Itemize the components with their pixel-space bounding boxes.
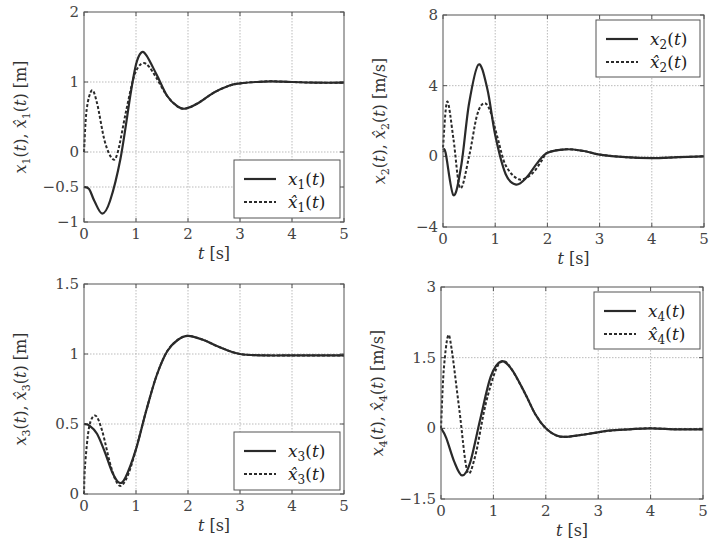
subplot-x1: 012345210−0.5−1t [s]x1(t), x̂1(t) [m]x1(… <box>11 3 349 263</box>
x-tick-label: 1 <box>489 502 499 520</box>
x-tick-label: 0 <box>79 497 89 515</box>
subplot-x2: 012345840−4t [s]x2(t), x̂2(t) [m/s]x2(t)… <box>370 6 709 268</box>
x-tick-label: 0 <box>79 225 89 243</box>
y-tick-label: 1 <box>69 345 79 363</box>
x-tick-label: 4 <box>646 502 656 520</box>
state-line-x4 <box>441 361 703 475</box>
y-tick-label: 3 <box>426 278 436 296</box>
legend: x1(t)x̂1(t) <box>234 160 340 218</box>
x-axis-label: t [s] <box>557 249 589 268</box>
legend-label: x̂2(t) <box>650 52 687 75</box>
subplot-x4: 01234531.50−1.5t [s]x4(t), x̂4(t) [m/s]x… <box>368 278 708 540</box>
y-tick-label: 1.5 <box>412 349 436 367</box>
y-axis-label: x4(t), x̂4(t) [m/s] <box>368 330 390 456</box>
legend-label: x3(t) <box>288 441 325 464</box>
legend: x4(t)x̂4(t) <box>594 292 700 349</box>
y-tick-label: 0 <box>69 143 79 161</box>
x-tick-label: 2 <box>183 225 193 243</box>
x-tick-label: 1 <box>131 497 141 515</box>
subplot-x3: 0123451.510.50t [s]x3(t), x̂3(t) [m]x3(t… <box>11 275 349 535</box>
legend: x3(t)x̂3(t) <box>234 432 340 490</box>
x-tick-label: 3 <box>595 230 605 248</box>
estimate-line-x4 <box>441 335 703 473</box>
y-tick-label: 0 <box>428 147 438 165</box>
x-tick-label: 4 <box>287 497 297 515</box>
x-tick-label: 5 <box>339 225 349 243</box>
y-axis-label: x3(t), x̂3(t) [m] <box>11 333 33 446</box>
y-tick-label: 1 <box>69 73 79 91</box>
legend-label: x̂3(t) <box>288 464 325 487</box>
y-tick-label: 2 <box>69 3 79 21</box>
x-tick-label: 4 <box>647 230 657 248</box>
state-line-x2 <box>443 64 704 195</box>
legend-label: x̂1(t) <box>288 192 325 215</box>
x-axis-label: t [s] <box>556 521 588 540</box>
x-tick-label: 5 <box>698 502 708 520</box>
x-axis-label: t [s] <box>198 516 230 535</box>
legend: x2(t)x̂2(t) <box>596 20 700 77</box>
x-tick-label: 3 <box>593 502 603 520</box>
x-tick-label: 2 <box>183 497 193 515</box>
y-tick-label: −0.5 <box>43 178 79 196</box>
legend-label: x2(t) <box>650 29 687 52</box>
legend-label: x4(t) <box>648 301 685 324</box>
y-tick-label: −1.5 <box>400 490 436 508</box>
x-tick-label: 3 <box>235 497 245 515</box>
x-tick-label: 0 <box>438 230 448 248</box>
y-axis-label: x1(t), x̂1(t) [m] <box>11 61 33 174</box>
y-axis-label: x2(t), x̂2(t) [m/s] <box>370 58 392 184</box>
figure-canvas: 012345210−0.5−1t [s]x1(t), x̂1(t) [m]x1(… <box>0 0 725 545</box>
x-tick-label: 1 <box>490 230 500 248</box>
legend-label: x1(t) <box>288 169 325 192</box>
x-tick-label: 3 <box>235 225 245 243</box>
x-tick-label: 1 <box>131 225 141 243</box>
legend-label: x̂4(t) <box>648 324 685 347</box>
x-tick-label: 2 <box>541 502 551 520</box>
x-tick-label: 4 <box>287 225 297 243</box>
y-tick-label: 1.5 <box>55 275 79 293</box>
y-tick-label: −1 <box>57 213 79 231</box>
x-tick-label: 2 <box>543 230 553 248</box>
y-tick-label: 8 <box>428 6 438 24</box>
x-tick-label: 0 <box>436 502 446 520</box>
x-axis-label: t [s] <box>198 244 230 263</box>
y-tick-label: 4 <box>428 77 438 95</box>
y-tick-label: 0 <box>69 485 79 503</box>
x-tick-label: 5 <box>339 497 349 515</box>
y-tick-label: 0 <box>426 419 436 437</box>
x-tick-label: 5 <box>699 230 709 248</box>
estimate-line-x2 <box>443 102 704 189</box>
y-tick-label: −4 <box>416 218 438 236</box>
y-tick-label: 0.5 <box>55 415 79 433</box>
